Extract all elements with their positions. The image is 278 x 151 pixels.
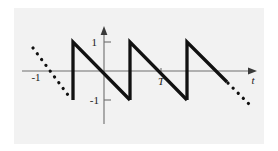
y-tick-label-plus-one: 1 bbox=[92, 36, 98, 48]
x-axis-name-label: t bbox=[251, 74, 255, 86]
right-dotted-ramp bbox=[228, 83, 252, 107]
y-tick-label-minus-one: -1 bbox=[90, 94, 99, 106]
y-axis-arrowhead bbox=[101, 26, 108, 35]
sawtooth-plot: 1 -1 T -1 t bbox=[0, 0, 278, 151]
x-tick-label-period: T bbox=[158, 75, 165, 87]
x-tick-label-left-minus-one: -1 bbox=[31, 71, 40, 83]
figure-root: 1 -1 T -1 t bbox=[0, 0, 278, 151]
